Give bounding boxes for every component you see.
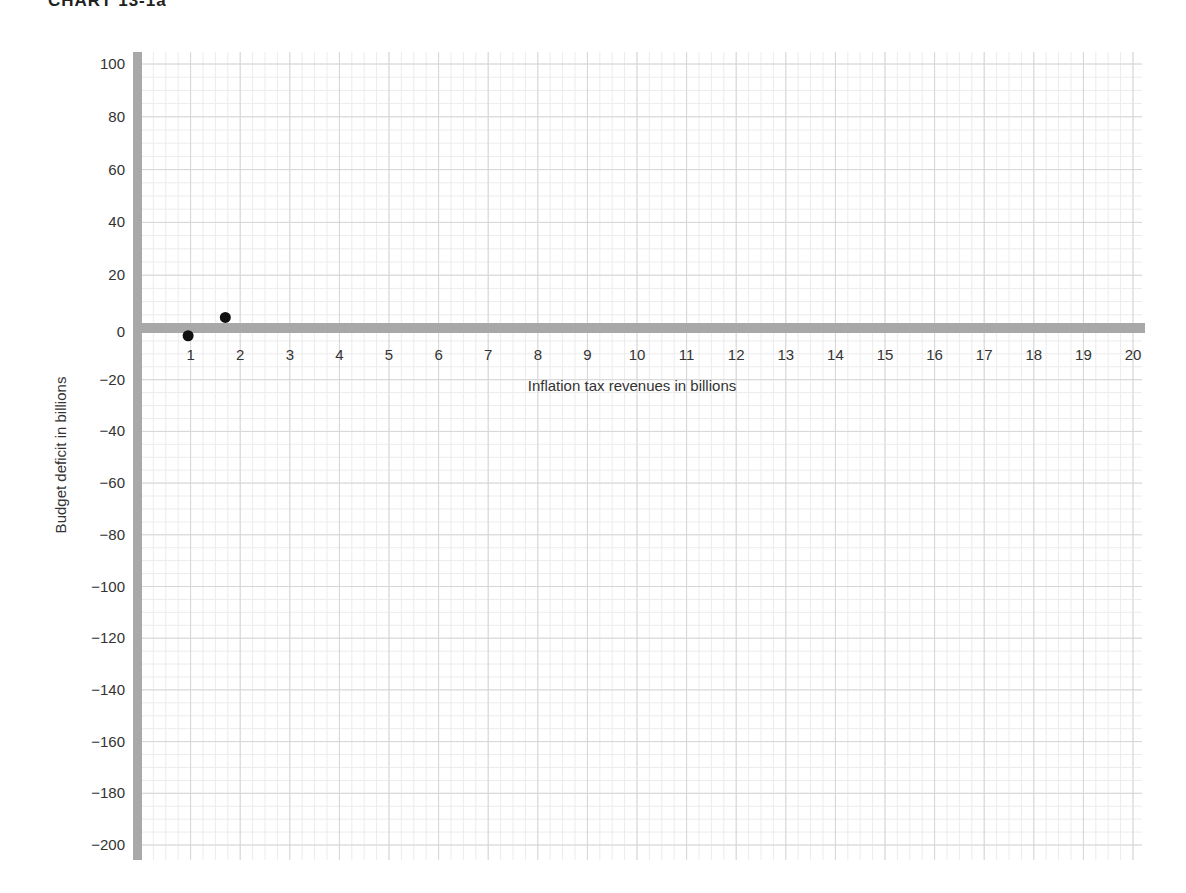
x-tick-label: 13 [777, 346, 794, 363]
x-tick-label: 19 [1075, 346, 1092, 363]
y-tick-label: 20 [108, 266, 125, 283]
data-point [220, 312, 231, 323]
y-tick-label: 0 [117, 323, 125, 340]
x-tick-label: 20 [1125, 346, 1142, 363]
y-tick-label: −140 [91, 681, 125, 698]
x-tick-label: 8 [534, 346, 542, 363]
x-axis [133, 323, 1145, 333]
x-tick-label: 17 [976, 346, 993, 363]
x-tick-label: 2 [236, 346, 244, 363]
y-tick-label: 100 [100, 55, 125, 72]
x-tick-label: 3 [286, 346, 294, 363]
x-tick-label: 16 [926, 346, 943, 363]
x-axis-title: Inflation tax revenues in billions [528, 377, 736, 394]
x-tick-label: 11 [679, 346, 695, 363]
x-tick-label: 9 [583, 346, 591, 363]
x-tick-label: 12 [728, 346, 745, 363]
y-tick-label: 40 [108, 213, 125, 230]
y-tick-label: −20 [100, 371, 125, 388]
y-tick-label: −80 [100, 526, 125, 543]
y-tick-label: −100 [91, 578, 125, 595]
grid-minor-lines [141, 52, 1142, 860]
x-tick-label: 14 [827, 346, 844, 363]
data-point [183, 330, 194, 341]
y-tick-labels: 100806040200−20−40−60−80−100−120−140−160… [91, 55, 125, 853]
x-tick-label: 6 [434, 346, 442, 363]
x-tick-label: 15 [877, 346, 894, 363]
x-tick-label: 1 [186, 346, 194, 363]
y-axis [133, 52, 142, 860]
x-tick-label: 10 [629, 346, 646, 363]
x-tick-labels: 1234567891011121314151617181920 [186, 346, 1141, 363]
x-tick-label: 7 [484, 346, 492, 363]
x-tick-label: 4 [335, 346, 343, 363]
y-tick-label: −160 [91, 733, 125, 750]
y-tick-label: −180 [91, 784, 125, 801]
y-tick-label: −200 [91, 836, 125, 853]
y-tick-label: 80 [108, 108, 125, 125]
x-tick-label: 5 [385, 346, 393, 363]
y-tick-label: 60 [108, 161, 125, 178]
x-tick-label: 18 [1025, 346, 1042, 363]
y-tick-label: −120 [91, 629, 125, 646]
y-axis-title: Budget deficit in billions [52, 377, 69, 534]
y-tick-label: −60 [100, 474, 125, 491]
y-tick-label: −40 [100, 422, 125, 439]
grid-major-lines [141, 52, 1142, 860]
scatter-plot: 100806040200−20−40−60−80−100−120−140−160… [0, 0, 1186, 893]
